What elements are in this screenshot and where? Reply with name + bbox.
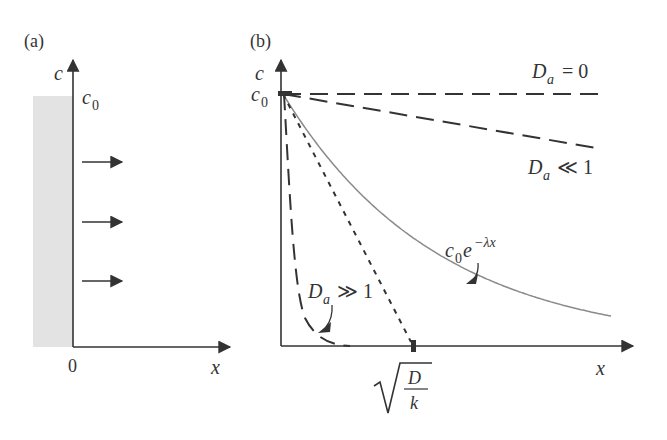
svg-text:D: D — [527, 156, 543, 178]
svg-text:≪ 1: ≪ 1 — [557, 156, 593, 178]
pointer-exponential-head — [466, 274, 478, 284]
label-da-small: D a ≪ 1 — [527, 156, 593, 183]
panel-b-x-axis-label: x — [595, 357, 605, 379]
radical-sign — [374, 363, 432, 413]
svg-text:c: c — [251, 83, 260, 105]
tick-label-sqrt-d-over-k: D k — [374, 363, 432, 413]
svg-text:k: k — [410, 393, 419, 413]
svg-text:= 0: = 0 — [562, 60, 588, 82]
x-tick-decay-length — [411, 340, 416, 352]
curve-da-small — [283, 94, 602, 149]
svg-text:−λx: −λx — [474, 235, 497, 250]
curve-da-large — [284, 94, 350, 346]
label-exponential: c 0 e −λx — [445, 235, 497, 266]
svg-text:a: a — [547, 72, 554, 87]
svg-text:a: a — [323, 292, 330, 307]
panel-a-origin-label: 0 — [68, 356, 77, 376]
svg-text:D: D — [407, 368, 421, 388]
panel-a-label: (a) — [24, 31, 44, 52]
svg-text:≫ 1: ≫ 1 — [337, 280, 373, 302]
source-region — [33, 96, 73, 347]
diagram-canvas: (a) c c 0 0 x (b) c c 0 x D — [0, 0, 667, 440]
label-da-large: D a ≫ 1 — [307, 280, 373, 307]
label-da-zero: D a = 0 — [531, 60, 588, 87]
flux-arrows — [82, 162, 122, 281]
svg-text:c: c — [82, 86, 91, 108]
panel-a: (a) c c 0 0 x — [24, 31, 230, 378]
panel-b-y-axis-label: c — [255, 62, 264, 84]
panel-b-label: (b) — [250, 31, 271, 52]
panel-a-y-axis-label: c — [54, 62, 63, 84]
pointer-da-large-head — [318, 322, 331, 333]
svg-text:0: 0 — [261, 95, 268, 110]
svg-text:0: 0 — [92, 98, 99, 113]
svg-text:e: e — [463, 239, 472, 261]
panel-a-c0-label: c 0 — [82, 86, 99, 113]
panel-a-x-axis-label: x — [210, 356, 220, 378]
svg-text:D: D — [531, 60, 547, 82]
svg-text:D: D — [307, 280, 323, 302]
svg-text:0: 0 — [455, 251, 462, 266]
svg-text:c: c — [445, 239, 454, 261]
curve-exponential — [283, 94, 611, 316]
panel-b-c0-label: c 0 — [251, 83, 268, 110]
svg-text:a: a — [543, 168, 550, 183]
panel-b: (b) c c 0 x D a = 0 D a ≪ 1 c 0 e — [250, 31, 633, 413]
